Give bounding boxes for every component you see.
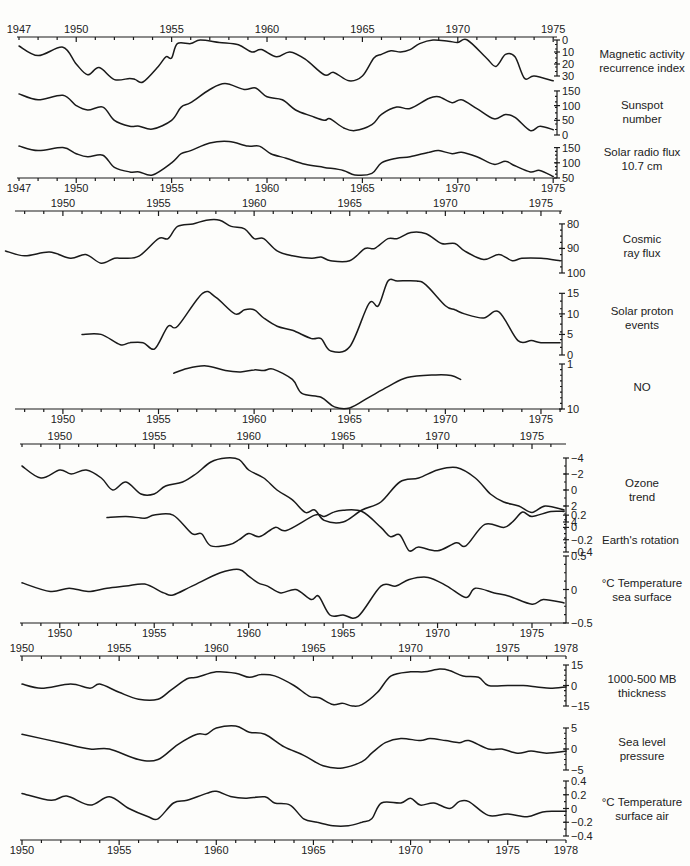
series-line-solar-proton-events (82, 279, 560, 352)
series-label: Solar proton (611, 305, 674, 317)
x-tick-label: 1975 (529, 197, 553, 209)
x-tick-label: 1947 (7, 23, 31, 35)
series-label: sea surface (612, 591, 671, 603)
panel-solar-activity: 1947195019551960196519701975194719501955… (7, 23, 685, 194)
series-line-no (174, 366, 461, 409)
series-line-earth-s-rotation (107, 510, 564, 552)
x-tick-label: 1950 (64, 182, 88, 194)
x-tick-label: 1955 (107, 642, 131, 654)
x-tick-label: 1960 (204, 642, 228, 654)
y-tick-label: 100 (567, 267, 585, 279)
x-tick-label: 1955 (146, 197, 170, 209)
stacked-time-series-chart: 1947195019551960196519701975194719501955… (0, 0, 690, 866)
y-tick-label: 100 (562, 100, 580, 112)
x-tick-label: 1955 (159, 182, 183, 194)
x-tick-label: 1975 (520, 430, 544, 442)
series-line--c-temperature-surface-air (22, 791, 566, 826)
y-tick-label: 30 (562, 70, 574, 82)
y-tick-label: −2 (571, 468, 584, 480)
x-tick-label: 1960 (236, 627, 260, 639)
series-label: Cosmic (623, 233, 662, 245)
y-tick-label: 15 (567, 287, 579, 299)
x-tick-label: 1960 (204, 844, 228, 856)
x-tick-label: 1955 (142, 627, 166, 639)
y-tick-label: 0 (571, 521, 577, 533)
y-tick-label: 100 (562, 157, 580, 169)
series-label: Solar radio flux (604, 146, 681, 158)
x-tick-label: 1965 (331, 430, 355, 442)
y-tick-label: 0 (571, 803, 577, 815)
y-tick-label: 15 (571, 659, 583, 671)
y-tick-label: 0 (571, 743, 577, 755)
y-tick-label: 0 (571, 680, 577, 692)
y-tick-label: 0.5 (571, 550, 586, 562)
y-tick-label: 0 (562, 129, 568, 141)
panel-ozone-rotation-sst: 1950195519601965197019751950195519601965… (20, 430, 682, 639)
y-tick-label: 0.2 (571, 789, 586, 801)
x-tick-label: 1960 (242, 197, 266, 209)
series-label: 1000-500 MB (607, 673, 676, 685)
x-tick-label: 1975 (520, 627, 544, 639)
x-tick-label: 1965 (350, 182, 374, 194)
series-label: surface air (615, 810, 669, 822)
x-tick-label: 1950 (64, 23, 88, 35)
y-tick-label: −0.2 (571, 534, 593, 546)
y-tick-label: 10 (567, 403, 579, 415)
x-tick-label: 1955 (159, 23, 183, 35)
series-label: Earth's rotation (602, 534, 679, 546)
x-tick-label: 1970 (446, 182, 470, 194)
series-line-sunspot-number (19, 84, 553, 131)
series-line-cosmic-ray-flux (6, 220, 561, 264)
x-tick-label: 1960 (236, 430, 260, 442)
series-label: pressure (620, 750, 665, 762)
y-tick-label: 10 (567, 308, 579, 320)
y-tick-label: −15 (571, 700, 590, 712)
x-tick-label: 1965 (301, 844, 325, 856)
y-tick-label: 20 (562, 58, 574, 70)
x-tick-label: 1965 (337, 413, 361, 425)
series-label: Sunspot (621, 99, 664, 111)
x-tick-label: 1970 (425, 627, 449, 639)
x-tick-label: 1978 (554, 844, 578, 856)
series-line-sea-level-pressure (22, 726, 566, 768)
series-line-magnetic-activity-recurrence-index (19, 39, 553, 82)
y-tick-label: 0 (562, 34, 568, 46)
y-tick-label: 0.4 (571, 775, 586, 787)
y-tick-label: −4 (571, 452, 584, 464)
x-tick-label: 1965 (350, 23, 374, 35)
series-label: °C Temperature (602, 796, 682, 808)
series-label: recurrence index (599, 62, 685, 74)
series-label: thickness (618, 687, 666, 699)
y-tick-label: 10 (562, 46, 574, 58)
x-tick-label: 1960 (255, 182, 279, 194)
y-tick-label: −0.2 (571, 816, 593, 828)
x-tick-label: 1965 (301, 642, 325, 654)
y-tick-label: 0 (571, 484, 577, 496)
x-tick-label: 1970 (433, 413, 457, 425)
y-tick-label: 150 (562, 85, 580, 97)
x-tick-label: 1950 (48, 627, 72, 639)
series-line-1000-500-mb-thickness (22, 669, 566, 706)
y-tick-label: 0 (571, 584, 577, 596)
series-label: Ozone (625, 477, 659, 489)
series-label: 10.7 cm (622, 160, 663, 172)
y-tick-label: 50 (562, 114, 574, 126)
x-tick-label: 1955 (146, 413, 170, 425)
series-label: number (623, 113, 662, 125)
y-tick-label: −0.5 (571, 617, 593, 629)
series-line-ozone-trend (22, 458, 564, 523)
series-label: events (625, 319, 659, 331)
x-tick-label: 1975 (529, 413, 553, 425)
x-tick-label: 1950 (51, 413, 75, 425)
x-tick-label: 1965 (331, 627, 355, 639)
x-tick-label: 1970 (433, 197, 457, 209)
x-tick-label: 1950 (48, 430, 72, 442)
x-tick-label: 1975 (495, 844, 519, 856)
series-line--c-temperature-sea-surface (22, 569, 564, 618)
y-tick-label: 0.2 (571, 509, 586, 521)
series-label: Sea level (618, 736, 665, 748)
y-tick-label: 1 (567, 358, 573, 370)
y-tick-label: 5 (571, 722, 577, 734)
series-label: Magnetic activity (599, 48, 684, 60)
x-tick-label: 1970 (425, 430, 449, 442)
